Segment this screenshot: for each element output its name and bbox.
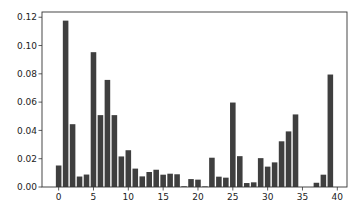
bar: [279, 141, 285, 187]
y-tick-label: 0.02: [17, 154, 37, 164]
x-tick-label: 10: [123, 192, 135, 202]
bar: [321, 175, 327, 187]
bar: [133, 169, 139, 187]
bar: [126, 150, 132, 187]
x-tick-label: 25: [227, 192, 238, 202]
x-tick-label: 15: [157, 192, 168, 202]
bar-series: [56, 21, 333, 187]
x-tick-label: 40: [332, 192, 344, 202]
x-tick-label: 5: [91, 192, 97, 202]
bar: [188, 179, 194, 187]
axes-frame: [42, 12, 347, 187]
bar: [314, 183, 320, 187]
bar: [105, 80, 111, 187]
bar: [70, 124, 76, 187]
bar: [56, 166, 62, 188]
x-tick-label: 20: [192, 192, 204, 202]
x-tick-label: 35: [297, 192, 308, 202]
bar: [244, 183, 250, 187]
bar: [153, 170, 159, 187]
y-tick-label: 0.10: [17, 41, 37, 51]
bar-chart: 0.000.020.040.060.080.100.12 05101520253…: [0, 0, 361, 211]
bar: [265, 167, 271, 187]
y-tick-label: 0.04: [17, 126, 37, 136]
bar: [139, 176, 145, 187]
bar: [195, 180, 201, 187]
bar: [84, 175, 90, 187]
bar: [251, 182, 257, 187]
bar: [293, 114, 299, 187]
bar: [160, 175, 166, 187]
bar: [167, 174, 173, 187]
bar: [77, 177, 83, 187]
bar: [146, 172, 152, 187]
bar: [216, 177, 222, 187]
bar: [230, 103, 236, 187]
bar: [328, 75, 334, 187]
y-tick-label: 0.08: [17, 69, 37, 79]
bar: [91, 52, 97, 187]
x-tick-label: 30: [262, 192, 274, 202]
bar: [98, 115, 104, 187]
bar: [258, 158, 264, 187]
bar: [223, 178, 229, 187]
y-tick-label: 0.06: [17, 97, 37, 107]
bar: [174, 174, 180, 187]
bar: [286, 131, 292, 187]
bar: [63, 21, 69, 187]
x-axis: 0510152025303540: [56, 187, 344, 202]
bar: [112, 115, 118, 187]
y-tick-label: 0.00: [17, 182, 37, 192]
y-tick-label: 0.12: [17, 12, 37, 22]
bar: [272, 162, 278, 187]
y-axis: 0.000.020.040.060.080.100.12: [17, 12, 42, 192]
bar: [237, 156, 243, 187]
x-tick-label: 0: [56, 192, 62, 202]
bar: [119, 156, 125, 187]
bar: [209, 158, 215, 187]
